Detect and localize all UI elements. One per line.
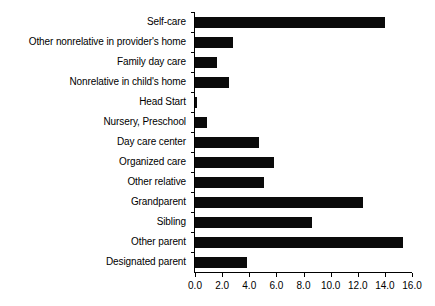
y-axis-tick <box>191 32 195 33</box>
category-label: Other nonrelative in provider's home <box>0 37 186 47</box>
bar <box>195 97 197 108</box>
category-label: Sibling <box>0 217 186 227</box>
plot-area: 0.02.04.06.08.010.012.014.016.0 <box>195 12 412 272</box>
bar <box>195 237 403 248</box>
category-label: Organized care <box>0 157 186 167</box>
x-axis-tick-label: 10.0 <box>316 280 346 291</box>
bar <box>195 17 385 28</box>
category-label: Nursery, Preschool <box>0 117 186 127</box>
x-axis-tick <box>249 273 250 277</box>
x-axis-tick <box>276 273 277 277</box>
bar <box>195 57 217 68</box>
x-axis-tick-label: 14.0 <box>370 280 400 291</box>
y-axis-tick <box>191 12 195 13</box>
bar-chart: Self-careOther nonrelative in provider's… <box>0 0 435 306</box>
bar <box>195 257 247 268</box>
bar <box>195 177 264 188</box>
x-axis-tick-label: 16.0 <box>397 280 427 291</box>
bar <box>195 117 207 128</box>
x-axis-tick <box>331 273 332 277</box>
y-axis-tick <box>191 232 195 233</box>
x-axis-tick <box>195 273 196 277</box>
x-axis-tick-label: 4.0 <box>234 280 264 291</box>
y-axis-tick <box>191 152 195 153</box>
x-axis-tick <box>358 273 359 277</box>
bar <box>195 197 363 208</box>
y-axis-tick <box>191 192 195 193</box>
bar <box>195 77 229 88</box>
bar <box>195 137 259 148</box>
category-label: Other parent <box>0 237 186 247</box>
x-axis-tick <box>385 273 386 277</box>
y-axis-tick <box>191 132 195 133</box>
bar <box>195 217 312 228</box>
y-axis-tick <box>191 92 195 93</box>
x-axis-tick-label: 6.0 <box>261 280 291 291</box>
category-label: Head Start <box>0 97 186 107</box>
x-axis-tick-label: 12.0 <box>343 280 373 291</box>
y-axis-tick <box>191 72 195 73</box>
category-label: Nonrelative in child's home <box>0 77 186 87</box>
y-axis-tick <box>191 212 195 213</box>
x-axis-tick <box>304 273 305 277</box>
bar <box>195 157 274 168</box>
y-axis-tick <box>191 252 195 253</box>
bar <box>195 37 233 48</box>
x-axis-tick-label: 2.0 <box>207 280 237 291</box>
y-axis-tick <box>191 172 195 173</box>
x-axis-tick <box>222 273 223 277</box>
y-axis-tick <box>191 52 195 53</box>
category-label: Designated parent <box>0 257 186 267</box>
category-label: Family day care <box>0 57 186 67</box>
category-label: Grandparent <box>0 197 186 207</box>
category-axis-labels: Self-careOther nonrelative in provider's… <box>0 12 190 272</box>
x-axis-tick <box>412 273 413 277</box>
y-axis-tick <box>191 112 195 113</box>
x-axis-tick-label: 8.0 <box>289 280 319 291</box>
category-label: Self-care <box>0 17 186 27</box>
category-label: Other relative <box>0 177 186 187</box>
category-label: Day care center <box>0 137 186 147</box>
x-axis-tick-label: 0.0 <box>180 280 210 291</box>
